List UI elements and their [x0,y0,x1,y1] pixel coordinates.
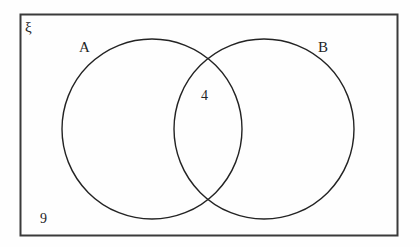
venn-diagram-graphic [0,0,420,247]
intersection-count-label: 4 [201,89,208,103]
set-a-label: A [79,40,90,55]
universal-set-frame [21,15,398,236]
outside-region-count-label: 9 [40,212,47,226]
universal-set-symbol: ξ [25,20,32,35]
venn-diagram-canvas: ξ A B 4 9 [0,0,420,247]
set-b-label: B [318,40,328,55]
set-b-circle[interactable] [174,39,354,219]
set-a-circle[interactable] [62,39,242,219]
